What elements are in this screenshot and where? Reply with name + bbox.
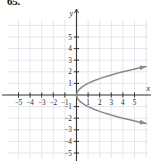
axis-lines [2, 9, 151, 161]
x-tick-label: 5 [133, 99, 137, 107]
y-tick-label: −4 [64, 138, 72, 146]
grid-lines [8, 20, 148, 158]
y-tick-label: 5 [68, 34, 72, 42]
x-tick-label: −4 [26, 99, 34, 107]
y-tick-label: 1 [68, 80, 72, 88]
x-axis-label: x [145, 84, 150, 93]
x-tick-label: −5 [15, 99, 23, 107]
y-tick-label: 4 [68, 45, 72, 53]
y-tick-label: −2 [64, 115, 72, 123]
y-tick-label: −1 [64, 103, 72, 111]
x-tick-label: 3 [110, 99, 114, 107]
tick-labels: −5−4−3−2−112345−5−4−3−2−112345 [15, 34, 137, 158]
x-tick-label: −3 [38, 99, 46, 107]
y-axis-label: y [68, 9, 73, 18]
x-tick-label: 2 [98, 99, 102, 107]
y-tick-label: −3 [64, 126, 72, 134]
coordinate-plane: −5−4−3−2−112345−5−4−3−2−112345 y x [0, 0, 152, 163]
y-tick-label: −5 [64, 150, 72, 158]
plot-svg: −5−4−3−2−112345−5−4−3−2−112345 y x [0, 0, 152, 163]
x-tick-label: 4 [121, 99, 125, 107]
x-tick-label: −2 [49, 99, 57, 107]
figure-container: 65. −5−4−3−2−112345−5−4−3−2−112345 y x [0, 0, 152, 163]
y-tick-label: 2 [68, 68, 72, 76]
y-tick-label: 3 [68, 57, 72, 65]
